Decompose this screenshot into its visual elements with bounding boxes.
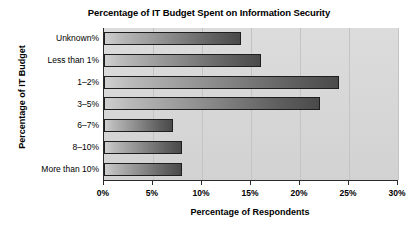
x-axis-tick bbox=[299, 180, 300, 185]
y-axis-tick-label: 6–7% bbox=[13, 120, 99, 130]
y-axis-tick-label: More than 10% bbox=[13, 164, 99, 174]
bar bbox=[104, 163, 182, 176]
x-axis-tick bbox=[348, 180, 349, 185]
bar bbox=[104, 141, 182, 154]
bar bbox=[104, 119, 173, 132]
x-axis-tick bbox=[250, 180, 251, 185]
x-axis-tick-label: 15% bbox=[230, 188, 270, 198]
bar-row bbox=[104, 71, 398, 93]
y-axis-tick-labels: Unknown%Less than 1%1–2%3–5%6–7%8–10%Mor… bbox=[11, 28, 99, 180]
bar-row bbox=[104, 28, 398, 50]
x-axis-tick-label: 10% bbox=[181, 188, 221, 198]
bar-row bbox=[104, 137, 398, 159]
x-axis-tick-label: 30% bbox=[377, 188, 417, 198]
chart-figure: Percentage of IT Budget Spent on Informa… bbox=[0, 0, 418, 231]
x-axis-tick-label: 25% bbox=[328, 188, 368, 198]
chart-title: Percentage of IT Budget Spent on Informa… bbox=[0, 7, 418, 18]
x-axis-tick bbox=[103, 180, 104, 185]
y-axis-tick-label: 1–2% bbox=[13, 77, 99, 87]
x-axis-tick bbox=[152, 180, 153, 185]
x-axis-tick bbox=[201, 180, 202, 185]
y-axis-tick-label: Less than 1% bbox=[13, 55, 99, 65]
gridline bbox=[398, 28, 399, 180]
y-axis-tick-label: Unknown% bbox=[13, 33, 99, 43]
bar-row bbox=[104, 50, 398, 72]
bar bbox=[104, 97, 320, 110]
x-axis-tick-label: 0% bbox=[83, 188, 123, 198]
x-axis-tick bbox=[397, 180, 398, 185]
bar-row bbox=[104, 158, 398, 180]
y-axis-tick-label: 3–5% bbox=[13, 99, 99, 109]
x-axis-tick-label: 20% bbox=[279, 188, 319, 198]
bar bbox=[104, 76, 339, 89]
x-axis-tick-label: 5% bbox=[132, 188, 172, 198]
bar-row bbox=[104, 93, 398, 115]
y-axis-tick-label: 8–10% bbox=[13, 142, 99, 152]
x-axis-title: Percentage of Respondents bbox=[103, 207, 397, 217]
bar bbox=[104, 54, 261, 67]
bar-row bbox=[104, 115, 398, 137]
plot-area bbox=[103, 28, 398, 180]
bar bbox=[104, 32, 241, 45]
